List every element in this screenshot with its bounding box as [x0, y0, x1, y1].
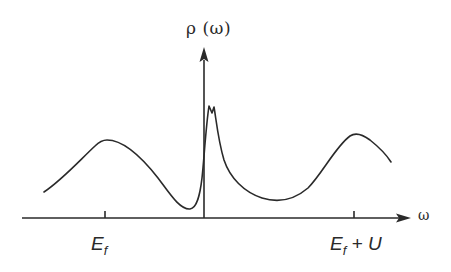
spectral-density-diagram: ρ (ω) ω Ef Ef + U [0, 0, 451, 272]
x-axis-label: ω [418, 207, 429, 223]
tick-label-ef-plus-u-main: E [330, 233, 343, 254]
spectral-curve [44, 106, 391, 209]
plot-canvas [0, 0, 451, 272]
tick-label-ef-main: E [91, 233, 104, 254]
y-axis-label: ρ (ω) [186, 18, 231, 38]
y-axis-arrow-icon [200, 47, 209, 62]
tick-label-ef-plus-u-rest: + U [346, 233, 381, 254]
tick-label-ef-sub: f [104, 243, 108, 258]
tick-label-ef-plus-u: Ef + U [330, 233, 382, 258]
tick-label-ef: Ef [91, 233, 107, 258]
